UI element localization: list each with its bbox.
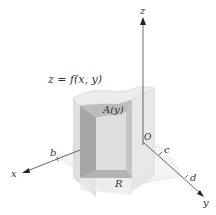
diagram-canvas: z = f(x, y) A(y) R O z x y b c d <box>0 0 216 215</box>
d-label: d <box>190 172 196 183</box>
tick-b <box>57 157 58 161</box>
x-axis-label: x <box>11 168 17 179</box>
z-axis-label: z <box>139 5 146 16</box>
x-axis-arrow-icon <box>22 168 30 173</box>
region-label: R <box>114 178 123 189</box>
surface-label: z = f(x, y) <box>47 73 102 86</box>
z-axis-arrow-icon <box>140 17 146 25</box>
cross-section-label: A(y) <box>102 104 124 115</box>
y-axis-label: y <box>202 197 209 208</box>
origin-label: O <box>144 132 152 142</box>
b-label: b <box>50 147 56 158</box>
c-label: c <box>164 144 170 155</box>
diagram-svg: z = f(x, y) A(y) R O z x y b c d <box>0 0 216 215</box>
tick-d <box>185 175 188 178</box>
